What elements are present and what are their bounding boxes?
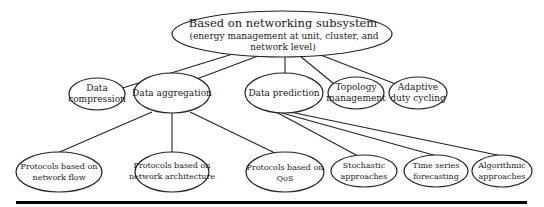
label-algorithmic-approaches-2: approaches <box>479 172 526 181</box>
label-data-prediction: Data prediction <box>248 88 319 98</box>
bottom-rule <box>16 201 527 204</box>
node-protocols-qos: Protocols based on QoS <box>246 152 324 192</box>
label-time-series-forecasting-2: forecasting <box>413 172 459 181</box>
label-data-compression-1: Data <box>86 83 108 93</box>
root-line1: Based on networking subsystem <box>189 16 378 30</box>
node-data-aggregation: Data aggregation <box>132 73 212 113</box>
node-protocols-network-architecture: Protocols based on network architecture <box>129 152 215 192</box>
label-stochastic-approaches-1: Stochastic <box>343 161 386 170</box>
label-data-aggregation: Data aggregation <box>132 88 212 98</box>
edge-prediction-timeseries <box>282 113 437 156</box>
node-time-series-forecasting: Time series forecasting <box>404 155 468 187</box>
label-protocols-network-architecture-1: Protocols based on <box>134 161 211 170</box>
label-stochastic-approaches-2: approaches <box>341 172 388 181</box>
hierarchy-diagram: Based on networking subsystem (energy ma… <box>0 0 544 207</box>
node-protocols-network-flow: Protocols based on network flow <box>16 152 102 192</box>
root-line3: network level) <box>250 42 315 52</box>
edge-aggregation-flow <box>55 112 152 154</box>
label-protocols-network-flow-1: Protocols based on <box>21 162 98 171</box>
label-adaptive-duty-cycling-1: Adaptive <box>397 82 438 92</box>
node-data-compression: Data compression <box>68 78 126 110</box>
edges-aggregation <box>55 112 277 154</box>
node-algorithmic-approaches: Algorithmic approaches <box>472 155 532 187</box>
edges-prediction <box>276 112 502 156</box>
edge-prediction-stochastic <box>276 112 358 156</box>
node-topology-management: Topology management <box>326 77 386 109</box>
label-topology-management-1: Topology <box>335 82 377 92</box>
label-adaptive-duty-cycling-2: duty cycling <box>390 93 446 103</box>
node-data-prediction: Data prediction <box>245 73 323 113</box>
node-adaptive-duty-cycling: Adaptive duty cycling <box>389 77 447 109</box>
label-time-series-forecasting-1: Time series <box>413 161 460 170</box>
label-algorithmic-approaches-1: Algorithmic <box>477 161 526 170</box>
label-protocols-network-architecture-2: network architecture <box>129 172 215 181</box>
edge-aggregation-qos <box>190 112 277 154</box>
label-protocols-qos-2: QoS <box>277 174 294 183</box>
label-protocols-network-flow-2: network flow <box>33 173 86 182</box>
node-stochastic-approaches: Stochastic approaches <box>331 155 397 187</box>
label-data-compression-2: compression <box>68 94 126 104</box>
edge-prediction-algorithmic <box>290 112 502 156</box>
label-topology-management-2: management <box>326 93 386 103</box>
node-root: Based on networking subsystem (energy ma… <box>172 11 392 57</box>
root-line2: (energy management at unit, cluster, and <box>189 31 378 41</box>
label-protocols-qos-1: Protocols based on <box>247 163 324 172</box>
